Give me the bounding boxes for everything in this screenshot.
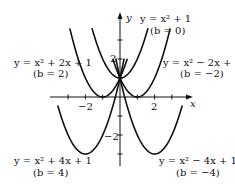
label-b0-value: (b = 0) bbox=[150, 25, 185, 36]
parabola-family-chart: y x −2 2 2 −2 y = x² + 1 (b = 0) y = x² … bbox=[0, 0, 235, 188]
parabola-bneg4 bbox=[116, 59, 182, 154]
y-axis-label: y bbox=[125, 12, 132, 23]
y-axis-arrow-icon bbox=[118, 12, 123, 19]
label-bneg4-equation: y = x² − 4x + 1 bbox=[158, 155, 235, 166]
y-tick-label-2: 2 bbox=[110, 53, 116, 64]
label-bneg4-value: (b = −4) bbox=[176, 167, 220, 178]
label-b4-equation: y = x² + 4x + 1 bbox=[13, 155, 92, 166]
label-bneg2-value: (b = −2) bbox=[180, 68, 224, 79]
label-b4-value: (b = 4) bbox=[33, 167, 68, 178]
x-tick-label-neg2: −2 bbox=[78, 101, 93, 112]
y-tick-label-neg2: −2 bbox=[104, 131, 119, 142]
label-bneg2-equation: y = x² − 2x + 1 bbox=[162, 57, 235, 68]
x-tick-label-2: 2 bbox=[151, 101, 157, 112]
label-b0-equation: y = x² + 1 bbox=[139, 13, 191, 24]
label-b2-equation: y = x² + 2x + 1 bbox=[13, 57, 92, 68]
x-axis-label: x bbox=[190, 98, 196, 109]
label-b2-value: (b = 2) bbox=[33, 68, 68, 79]
